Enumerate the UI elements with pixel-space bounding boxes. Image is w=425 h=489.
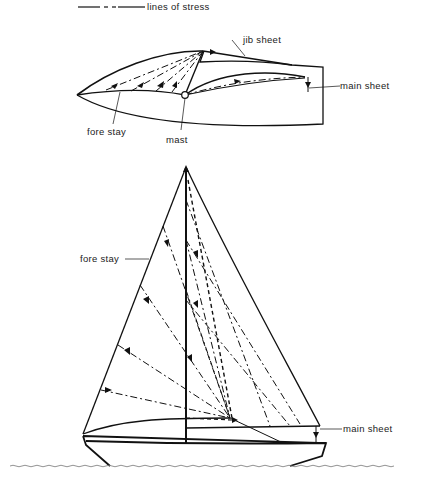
- label-fore-stay-plan: fore stay: [87, 126, 126, 137]
- hull-side: [83, 436, 326, 466]
- hull-outline-plan: [77, 51, 323, 126]
- label-jib-sheet: jib sheet: [242, 34, 281, 45]
- jib-leech-plan: [77, 51, 203, 95]
- label-mast: mast: [166, 134, 188, 145]
- plan-view: jib sheet main sheet fore stay mast: [77, 34, 390, 145]
- legend: lines of stress: [78, 1, 210, 12]
- side-view: fore stay main sheet: [10, 165, 394, 467]
- label-main-sheet-plan: main sheet: [340, 80, 390, 91]
- mast-circle-plan: [182, 92, 189, 99]
- boom: [186, 426, 320, 428]
- waterline: [10, 465, 394, 467]
- forestay-line-plan: [77, 90, 185, 95]
- label-main-sheet-side: main sheet: [343, 423, 393, 434]
- mainsail-leech: [186, 167, 320, 426]
- label-fore-stay-side: fore stay: [80, 253, 119, 264]
- jib-foot: [83, 418, 230, 434]
- sail-stress-diagram: lines of stress: [0, 0, 425, 489]
- legend-label: lines of stress: [147, 1, 210, 12]
- forestay-side: [83, 167, 186, 434]
- jib-sheet-line: [203, 51, 292, 65]
